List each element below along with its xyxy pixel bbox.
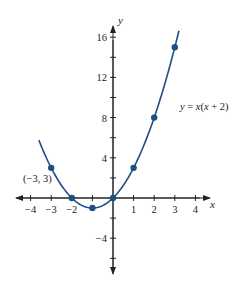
x-tick-label: −2: [66, 204, 77, 215]
data-point: [89, 205, 95, 211]
data-point: [172, 44, 178, 50]
x-tick-label: 4: [193, 204, 199, 215]
y-axis-label: y: [117, 14, 123, 26]
data-point: [130, 165, 136, 171]
y-tick-label: 12: [97, 72, 108, 83]
axes: [16, 26, 210, 274]
x-tick-label: 1: [131, 204, 136, 215]
y-tick-label: 8: [102, 113, 107, 124]
y-tick-label: 16: [97, 32, 108, 43]
data-point: [48, 165, 54, 171]
equation-label: y = x(x + 2): [179, 101, 229, 113]
parabola-chart: −4−3−21234−4481216 x y y = x(x + 2) (−3,…: [0, 0, 240, 283]
y-tick-label: −4: [96, 233, 108, 244]
data-point: [110, 195, 116, 201]
x-tick-label: 3: [172, 204, 177, 215]
point-annotation: (−3, 3): [23, 173, 52, 185]
data-point: [151, 114, 157, 120]
parabola-curve: [39, 31, 179, 208]
x-axis-label: x: [209, 198, 215, 210]
axis-tick-labels: −4−3−21234−4481216: [25, 32, 199, 244]
data-point: [69, 195, 75, 201]
x-tick-label: −3: [46, 204, 57, 215]
y-tick-label: 4: [102, 153, 108, 164]
x-tick-label: −4: [25, 204, 37, 215]
x-tick-label: 2: [152, 204, 157, 215]
